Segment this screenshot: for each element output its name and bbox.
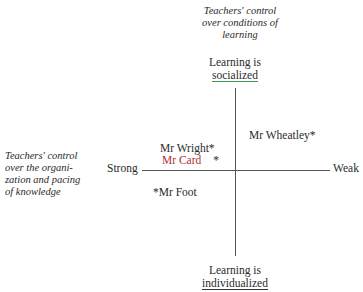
top-pole-line2: socialized: [212, 69, 258, 82]
bottom-pole-label: Learning is individualized: [180, 264, 290, 290]
caption-line: over the organi-: [5, 162, 100, 174]
vertical-axis-line: [235, 88, 236, 256]
top-pole-line1: Learning is: [185, 56, 285, 69]
asterisk-marker-icon: *: [310, 129, 316, 141]
caption-line: of knowledge: [5, 186, 100, 198]
caption-line: Teachers' control: [5, 150, 100, 162]
point-label: Mr Card: [162, 154, 201, 166]
caption-line: learning: [190, 29, 290, 41]
top-pole-label: Learning is socialized: [185, 56, 285, 82]
bottom-pole-line1: Learning is: [180, 264, 290, 277]
vertical-axis-caption: Teachers' control over conditions of lea…: [190, 5, 290, 41]
strong-pole-label: Strong: [107, 162, 138, 174]
asterisk-marker-icon: *: [213, 154, 219, 166]
horizontal-axis-line: [142, 170, 330, 171]
point-mr-foot: *Mr Foot: [153, 186, 197, 199]
point-label: Mr Wheatley: [249, 129, 310, 141]
weak-pole-label: Weak: [333, 162, 359, 174]
horizontal-axis-caption: Teachers' control over the organi- zatio…: [5, 150, 100, 198]
asterisk-marker-icon: *: [209, 142, 215, 154]
point-label: Mr Wright: [160, 142, 209, 154]
caption-line: over conditions of: [190, 17, 290, 29]
caption-line: zation and pacing: [5, 174, 100, 186]
bottom-pole-line2: individualized: [202, 277, 268, 290]
point-mr-card: Mr Card*: [162, 154, 219, 167]
point-label: Mr Foot: [159, 186, 197, 198]
caption-line: Teachers' control: [190, 5, 290, 17]
point-mr-wheatley: Mr Wheatley*: [249, 129, 316, 142]
